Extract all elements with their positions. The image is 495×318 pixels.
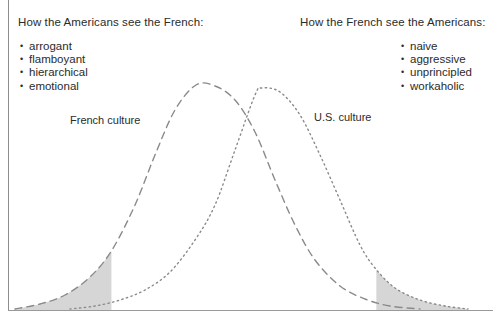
shaded-regions [15, 251, 468, 310]
list-item: hierarchical [20, 66, 88, 79]
french-culture-curve-label: French culture [70, 114, 140, 126]
right-trait-list: naive aggressive unprincipled workaholic [401, 40, 472, 93]
right-heading: How the French see the Americans: [300, 16, 485, 28]
list-item: naive [401, 40, 472, 53]
culture-comparison-figure: How the Americans see the French: arroga… [0, 0, 495, 318]
left-heading: How the Americans see the French: [18, 16, 203, 28]
list-item: workaholic [401, 80, 472, 93]
us-culture-curve-label: U.S. culture [314, 111, 371, 123]
list-item: emotional [20, 80, 88, 93]
list-item: flamboyant [20, 53, 88, 66]
list-item: aggressive [401, 53, 472, 66]
shaded-region-us-right-tail [376, 270, 468, 310]
list-item: unprincipled [401, 66, 472, 79]
shaded-region-french-left-tail [15, 251, 111, 310]
list-item: arrogant [20, 40, 88, 53]
left-trait-list: arrogant flamboyant hierarchical emotion… [20, 40, 88, 93]
